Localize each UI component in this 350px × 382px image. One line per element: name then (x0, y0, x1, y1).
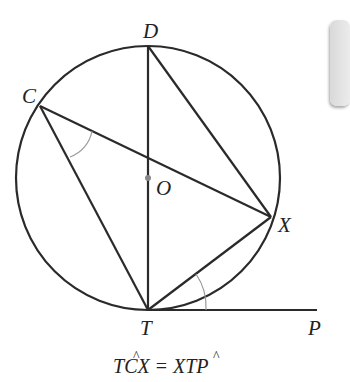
chord-CT (40, 106, 148, 310)
label-P: P (307, 316, 321, 340)
label-X: X (277, 213, 292, 237)
hat-C: ^ (133, 349, 140, 364)
center-dot (145, 175, 151, 181)
angle-mark-XTP (196, 274, 206, 310)
hat-T: ^ (213, 349, 220, 364)
caption-equation: TCX=XTP ^ ^ (113, 349, 220, 377)
label-T: T (140, 316, 153, 340)
label-O: O (156, 176, 171, 200)
label-D: D (142, 19, 158, 43)
svg-text:TCX=XTP: TCX=XTP (113, 355, 209, 377)
label-C: C (22, 84, 37, 108)
chord-CX (40, 106, 271, 217)
chord-TX (148, 217, 271, 310)
angle-mark-TCX (70, 131, 92, 157)
